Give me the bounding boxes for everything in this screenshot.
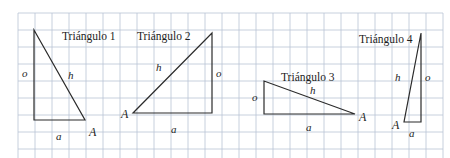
triangle-3-opposite-label: o [252,92,258,103]
triangle-2-adjacent-label: a [171,124,177,135]
triangle-4-vertex-label: A [392,119,399,131]
triangle-1-opposite-label: o [22,68,28,79]
triangle-3-title: Triángulo 3 [281,72,335,84]
triangle-1-vertex-label: A [89,126,96,138]
triangle-4-opposite-label: o [425,72,431,83]
triangle-4-hypotenuse-label: h [395,72,401,83]
triangle-3-vertex-label: A [359,111,366,123]
triangle-1-adjacent-label: a [56,131,62,142]
triangle-2-hypotenuse-label: h [156,62,162,73]
triangle-3-hypotenuse-label: h [310,85,316,96]
triangle-2-opposite-label: o [216,68,222,79]
triangle-1-title: Triángulo 1 [62,31,116,43]
triangle-1-hypotenuse-label: h [68,70,74,81]
triangle-3-adjacent-label: a [306,122,312,133]
triangle-2-title: Triángulo 2 [137,31,191,43]
triangle-4-title: Triángulo 4 [359,34,413,46]
geometry-figure: Triángulo 1 o h a A Triángulo 2 o h a A … [0,0,450,158]
triangle-2-vertex-label: A [121,108,128,120]
triangle-4-adjacent-label: a [409,128,415,139]
